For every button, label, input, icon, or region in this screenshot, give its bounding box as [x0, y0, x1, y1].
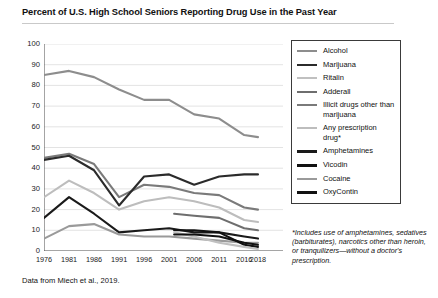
source-caption: Data from Miech et al., 2019.: [22, 276, 120, 285]
y-axis-tick-label: 30: [18, 185, 40, 193]
legend-footnote: *Includes use of amphetamines, sedatives…: [292, 228, 432, 265]
y-axis-tick-label: 90: [18, 61, 40, 69]
chart-svg: [44, 44, 283, 251]
legend-item-label: Alcohol: [323, 46, 348, 55]
legend-item[interactable]: Alcohol: [297, 46, 395, 55]
legend-item[interactable]: Amphetamines: [297, 146, 395, 155]
y-axis-tick-label: 60: [18, 123, 40, 131]
x-axis-tick-label: 2006: [181, 255, 207, 264]
legend-color-swatch: [297, 150, 317, 153]
x-axis-tick-label: 1976: [31, 255, 57, 264]
legend-item-label: Adderall: [323, 87, 351, 96]
chart-series-line: [174, 214, 258, 231]
y-axis-tick-label: 40: [18, 164, 40, 172]
legend-item-label: Cocaine: [323, 174, 351, 183]
x-axis-tick-label: 2001: [156, 255, 182, 264]
legend-item[interactable]: OxyContin: [297, 187, 395, 196]
x-axis-tick-label: 2018: [245, 255, 271, 264]
page-title: Percent of U.S. High School Seniors Repo…: [22, 7, 337, 17]
y-axis-tick-label: 100: [18, 40, 40, 48]
legend-item[interactable]: Illicit drugs other than marijuana: [297, 100, 395, 119]
legend-item[interactable]: Marijuana: [297, 60, 395, 69]
chart-series-line: [44, 197, 258, 238]
y-axis-tick-label: 20: [18, 206, 40, 214]
x-axis-tick-label: 1996: [131, 255, 157, 264]
y-axis-tick-label: 10: [18, 226, 40, 234]
x-axis-tick-label: 1991: [106, 255, 132, 264]
legend-item[interactable]: Cocaine: [297, 174, 395, 183]
legend-item[interactable]: Any prescription drug*: [297, 123, 395, 142]
legend-color-swatch: [297, 164, 317, 167]
legend-item-label: Illicit drugs other than marijuana: [323, 100, 395, 119]
legend-item-label: OxyContin: [323, 187, 358, 196]
y-axis-tick-label: 70: [18, 102, 40, 110]
chart-series-line: [44, 71, 258, 137]
legend-color-swatch: [297, 104, 317, 106]
x-axis-tick-label: 1981: [56, 255, 82, 264]
legend-color-swatch: [297, 191, 317, 194]
y-axis-tick-label: 50: [18, 144, 40, 152]
x-axis-tick-label: 1986: [81, 255, 107, 264]
chart-page: Percent of U.S. High School Seniors Repo…: [0, 0, 438, 298]
legend-item-label: Vicodin: [323, 160, 347, 169]
legend-color-swatch: [297, 91, 317, 93]
chart-legend: AlcoholMarijuanaRitalinAdderallIllicit d…: [291, 40, 401, 204]
legend-item[interactable]: Vicodin: [297, 160, 395, 169]
legend-color-swatch: [297, 127, 317, 129]
legend-color-swatch: [297, 178, 317, 180]
legend-item-label: Ritalin: [323, 73, 344, 82]
legend-color-swatch: [297, 64, 317, 67]
legend-item-label: Marijuana: [323, 60, 356, 69]
chart-plot-area: [44, 44, 283, 251]
legend-color-swatch: [297, 77, 317, 79]
title-divider: [22, 23, 394, 24]
y-axis-tick-label: 0: [18, 247, 40, 255]
legend-color-swatch: [297, 50, 317, 52]
y-axis-tick-label: 80: [18, 81, 40, 89]
x-axis-tick-label: 2011: [206, 255, 232, 264]
legend-item[interactable]: Adderall: [297, 87, 395, 96]
legend-item-label: Any prescription drug*: [323, 123, 395, 142]
legend-item-label: Amphetamines: [323, 146, 373, 155]
legend-item[interactable]: Ritalin: [297, 73, 395, 82]
